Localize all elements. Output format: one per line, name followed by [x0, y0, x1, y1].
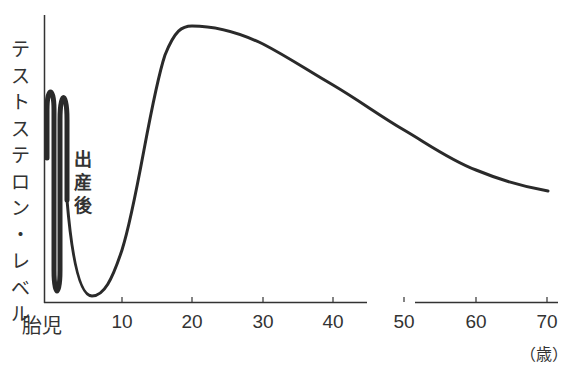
ylabel-char: ス — [8, 63, 32, 90]
ylabel-char: ス — [8, 116, 32, 143]
x-tick-label: 10 — [111, 311, 132, 333]
ylabel-char: ロ — [8, 169, 32, 196]
ylabel-char: テ — [8, 142, 32, 169]
x-tick-label: 70 — [536, 311, 557, 333]
x-axis-unit: （歳） — [520, 341, 568, 365]
x-tick-label: 50 — [393, 311, 414, 333]
x-tick-label: 20 — [181, 311, 202, 333]
annotation-char: 出 — [72, 148, 94, 171]
annotation-char: 後 — [72, 194, 94, 217]
x-tick-label: 40 — [322, 311, 343, 333]
ylabel-char: レ — [8, 248, 32, 275]
annotation-char: 産 — [72, 171, 94, 194]
x-ticks — [122, 297, 547, 302]
ylabel-char: ト — [8, 89, 32, 116]
fetal-curve — [47, 92, 67, 291]
ylabel-char: テ — [8, 36, 32, 63]
postnatal-annotation: 出 産 後 — [72, 148, 94, 217]
x-tick-label: 60 — [465, 311, 486, 333]
ylabel-char: ベ — [8, 275, 32, 302]
ylabel-char: ン — [8, 195, 32, 222]
y-axis-label: テ ス ト ス テ ロ ン ・ レ ベ ル — [8, 36, 32, 328]
testosterone-curve — [67, 26, 548, 296]
x-tick-label: 30 — [252, 311, 273, 333]
x-label-fetal: 胎児 — [22, 310, 62, 339]
ylabel-char: ・ — [8, 222, 32, 249]
